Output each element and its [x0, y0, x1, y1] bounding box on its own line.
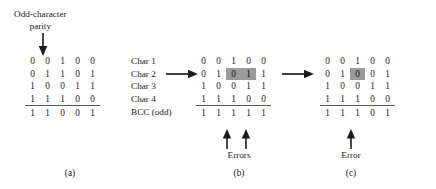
bit-cell: 1	[55, 93, 70, 106]
bit-cell: 0	[40, 55, 55, 68]
bit-cell: 1	[55, 55, 70, 68]
bit-row-bcc: 11001	[25, 106, 100, 121]
row-label-char4: Char 4	[131, 93, 172, 106]
bit-cell: 1	[350, 55, 365, 68]
bit-row-char3: 10011	[196, 80, 271, 93]
bit-row-char3: 10011	[25, 80, 100, 93]
bit-row-bcc: 11111	[196, 106, 271, 121]
bit-cell: 1	[211, 68, 226, 81]
bit-cell: 1	[25, 80, 40, 93]
bit-cell: 1	[40, 106, 55, 121]
bit-cell: 1	[241, 80, 256, 93]
bit-cell: 1	[211, 106, 226, 121]
bit-cell: 1	[196, 93, 211, 106]
bit-cell: 1	[40, 93, 55, 106]
bit-cell: 0	[226, 80, 241, 93]
bit-cell: 0	[365, 93, 380, 106]
bit-cell: 0	[211, 80, 226, 93]
bit-row-char1: 00100	[25, 55, 100, 68]
bit-cell: 1	[335, 68, 350, 81]
bit-cell: 0	[196, 68, 211, 81]
row-label-bcc: BCC (odd)	[131, 105, 172, 119]
bit-cell: 1	[380, 80, 395, 93]
bit-row-char1: 00100	[320, 55, 395, 68]
bit-cell: 1	[350, 93, 365, 106]
bit-cell: 0	[70, 93, 85, 106]
bit-cell: 1	[365, 80, 380, 93]
bit-cell: 1	[85, 80, 100, 93]
panel-b-row-labels: Char 1 Char 2 Char 3 Char 4 BCC (odd)	[131, 55, 172, 119]
bit-cell: 1	[211, 93, 226, 106]
bit-cell: 0	[320, 68, 335, 81]
bit-cell: 1	[320, 106, 335, 121]
bit-cell: 1	[25, 93, 40, 106]
bit-cell: 1	[85, 68, 100, 81]
bit-cell: 1	[226, 93, 241, 106]
bit-cell: 1	[320, 93, 335, 106]
bit-cell: 1	[256, 106, 271, 121]
bit-cell: 1	[335, 106, 350, 121]
bit-cell: 1	[85, 106, 100, 121]
bit-cell: 1	[335, 93, 350, 106]
bit-row-char2: 01011	[196, 68, 271, 81]
panel-a-bit-matrix: 0010001101100111110011001	[25, 55, 100, 121]
bit-cell: 0	[335, 55, 350, 68]
bit-cell: 0	[380, 55, 395, 68]
bit-cell: 1	[380, 68, 395, 81]
bit-cell: 0	[241, 55, 256, 68]
row-label-char1: Char 1	[131, 55, 172, 68]
bit-cell: 1	[25, 106, 40, 121]
bit-cell: 0	[365, 68, 380, 81]
bit-cell: 0	[241, 93, 256, 106]
bit-cell: 1	[256, 68, 271, 81]
bit-cell: 1	[226, 106, 241, 121]
bit-row-char4: 11100	[25, 93, 100, 106]
bit-row-char1: 00100	[196, 55, 271, 68]
up-arrow-icon-error-b1	[222, 129, 256, 149]
bit-cell: 1	[350, 106, 365, 121]
panel-c-bit-matrix: 0010001001100111110011101	[320, 55, 395, 121]
figure-canvas: Odd-character parity 0010001101100111110…	[0, 0, 436, 189]
panel-b-caption: (b)	[219, 168, 259, 179]
bit-cell: 0	[380, 93, 395, 106]
bit-cell: 0	[365, 106, 380, 121]
down-arrow-icon	[36, 33, 50, 57]
bit-cell: 0	[256, 93, 271, 106]
bit-cell: 0	[85, 55, 100, 68]
bit-cell: 1	[320, 80, 335, 93]
bit-cell: 1	[256, 80, 271, 93]
bit-cell: 0	[320, 55, 335, 68]
bit-cell: 0	[25, 68, 40, 81]
row-label-char2: Char 2	[131, 68, 172, 81]
bit-cell: 0	[70, 55, 85, 68]
row-label-char3: Char 3	[131, 80, 172, 93]
bit-cell: 0	[25, 55, 40, 68]
bit-row-char4: 11100	[196, 93, 271, 106]
bit-cell: 1	[40, 68, 55, 81]
panel-b-error-annotation: Errors	[204, 150, 274, 161]
bit-row-bcc: 11101	[320, 106, 395, 121]
bit-cell: 1	[241, 106, 256, 121]
bit-cell-highlighted: 0	[226, 68, 241, 81]
bit-cell: 1	[55, 68, 70, 81]
bit-cell: 0	[40, 80, 55, 93]
bit-cell: 0	[55, 80, 70, 93]
panel-b-bit-matrix: 0010001011100111110011111	[196, 55, 271, 121]
bit-cell: 0	[70, 106, 85, 121]
bit-cell-highlighted: 1	[241, 68, 256, 81]
odd-character-parity-line1: Odd-character	[14, 9, 67, 21]
bit-cell: 0	[256, 55, 271, 68]
bit-cell: 0	[70, 68, 85, 81]
odd-character-parity-label: Odd-character parity	[14, 9, 67, 32]
odd-character-parity-line2: parity	[14, 21, 67, 33]
bit-cell: 0	[335, 80, 350, 93]
bit-row-char2: 01001	[320, 68, 395, 81]
bit-row-char3: 10011	[320, 80, 395, 93]
panel-c-error-annotation: Error	[316, 150, 386, 161]
bit-cell: 0	[196, 55, 211, 68]
panel-a-caption: (a)	[50, 168, 90, 179]
bit-cell: 0	[211, 55, 226, 68]
up-arrow-icon-error-c	[346, 129, 360, 149]
bit-cell: 0	[85, 93, 100, 106]
bit-cell: 0	[365, 55, 380, 68]
